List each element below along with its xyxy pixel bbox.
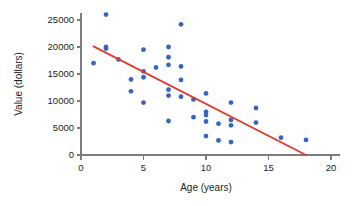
y-axis-label: Value (dollars): [13, 52, 24, 116]
data-point: [166, 93, 171, 98]
data-point: [216, 121, 221, 126]
data-point: [179, 64, 184, 69]
data-point: [204, 91, 209, 96]
data-point: [129, 89, 134, 94]
regression-line: [94, 46, 307, 155]
data-points: [91, 12, 308, 144]
x-tick-label: 20: [326, 162, 337, 173]
data-point: [166, 45, 171, 50]
data-point: [179, 78, 184, 83]
data-point: [216, 138, 221, 143]
x-tick-label: 5: [141, 162, 146, 173]
data-point: [141, 100, 146, 105]
y-axis-ticks: 0500010000150002000025000: [48, 14, 81, 160]
data-point: [129, 77, 134, 82]
data-point: [229, 123, 234, 128]
data-point: [229, 140, 234, 145]
scatter-chart: 0500010000150002000025000 05101520 Age (…: [0, 0, 360, 206]
data-point: [254, 106, 259, 111]
data-point: [104, 12, 109, 17]
x-tick-label: 15: [263, 162, 274, 173]
data-point: [91, 61, 96, 66]
x-tick-label: 0: [78, 162, 83, 173]
data-point: [204, 119, 209, 124]
y-tick-label: 25000: [48, 14, 74, 25]
data-point: [229, 100, 234, 105]
data-point: [154, 65, 159, 70]
data-point: [179, 22, 184, 27]
data-point: [204, 134, 209, 139]
y-tick-label: 20000: [48, 41, 74, 52]
data-point: [141, 75, 146, 80]
data-point: [104, 46, 109, 51]
x-axis-label: Age (years): [180, 182, 232, 193]
y-tick-label: 5000: [53, 122, 74, 133]
data-point: [279, 135, 284, 140]
data-point: [179, 94, 184, 99]
data-point: [166, 87, 171, 92]
x-tick-label: 10: [201, 162, 212, 173]
data-point: [166, 55, 171, 60]
x-axis-ticks: 05101520: [78, 155, 336, 173]
data-point: [304, 137, 309, 142]
data-point: [254, 120, 259, 125]
data-point: [191, 115, 196, 120]
data-point: [141, 47, 146, 52]
y-tick-label: 10000: [48, 95, 74, 106]
data-point: [166, 62, 171, 67]
y-tick-label: 15000: [48, 68, 74, 79]
data-point: [204, 113, 209, 118]
y-tick-label: 0: [69, 149, 74, 160]
data-point: [166, 119, 171, 124]
plot-area: 0500010000150002000025000 05101520 Age (…: [0, 0, 360, 206]
